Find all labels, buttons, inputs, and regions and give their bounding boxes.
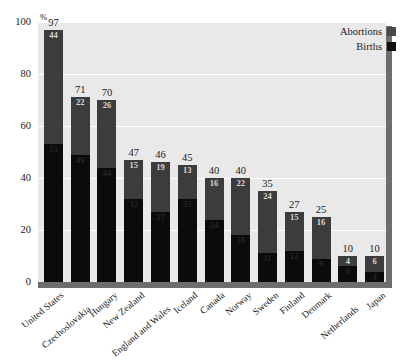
bar-segment-value-births: 44 (97, 169, 116, 178)
bar-segment-value-abortions: 22 (71, 98, 90, 107)
bar-segment-births[interactable]: 49 (71, 155, 90, 282)
legend-item-abortions: Abortions (340, 26, 396, 38)
bar-segment-value-births: 12 (285, 252, 304, 261)
bar-stack: 2218 (231, 178, 250, 282)
y-axis-tick-label: 40 (21, 173, 32, 184)
bar-segment-births[interactable]: 6 (338, 266, 357, 282)
bar-segment-value-births: 6 (338, 267, 357, 276)
y-axis-tick-label: 20 (21, 225, 32, 236)
bar-segment-abortions[interactable]: 4 (338, 256, 357, 266)
bar-segment-value-abortions: 22 (231, 179, 250, 188)
bar-segment-abortions[interactable]: 15 (285, 212, 304, 251)
bar-stack: 2249 (71, 97, 90, 282)
x-axis-tick-label: Netherlands (319, 304, 361, 341)
x-axis-tick-label: United States (20, 290, 65, 330)
bar-segment-births[interactable]: 32 (178, 199, 197, 282)
legend-label-births: Births (356, 41, 382, 53)
bar-segment-value-abortions: 15 (124, 161, 143, 170)
bar-stack: 64 (365, 256, 384, 282)
bar-total-label: 45 (172, 153, 203, 164)
bar-segment-value-abortions: 4 (338, 257, 357, 266)
bar-segment-value-abortions: 44 (44, 31, 63, 40)
bar-segment-abortions[interactable]: 16 (312, 217, 331, 259)
bar-segment-value-births: 32 (124, 200, 143, 209)
bar-stack: 1512 (285, 212, 304, 282)
bar-total-label: 70 (91, 88, 122, 99)
bar-segment-abortions[interactable]: 19 (151, 162, 170, 211)
bar-stack: 2644 (97, 100, 116, 282)
x-axis-tick-label: Norway (223, 290, 253, 317)
bar-stack: 1532 (124, 160, 143, 282)
bar-stack: 2411 (258, 191, 277, 282)
bar-stack: 1332 (178, 165, 197, 282)
chart-legend: Abortions Births (340, 26, 396, 55)
bar-segment-abortions[interactable]: 22 (231, 178, 250, 235)
bar-segment-value-births: 11 (258, 254, 277, 263)
bar-segment-value-abortions: 6 (365, 257, 384, 266)
bar-segment-births[interactable]: 12 (285, 251, 304, 282)
bar-segment-value-births: 24 (205, 221, 224, 230)
bar-total-label: 10 (359, 244, 390, 255)
y-axis-tick-label: 0 (26, 277, 31, 288)
bar-stack: 1624 (205, 178, 224, 282)
bar-segment-births[interactable]: 18 (231, 235, 250, 282)
bar-stack: 46 (338, 256, 357, 282)
x-axis-tick-label: Sweden (250, 290, 279, 317)
bar-segment-abortions[interactable]: 13 (178, 165, 197, 199)
bar-segment-births[interactable]: 32 (124, 199, 143, 282)
bar-segment-value-births: 32 (178, 200, 197, 209)
bar-segment-abortions[interactable]: 44 (44, 30, 63, 144)
bar-total-label: 35 (252, 179, 283, 190)
bar-segment-value-abortions: 16 (205, 179, 224, 188)
y-axis-tick-label: 100 (15, 17, 31, 28)
y-axis: 020406080100 (0, 22, 36, 282)
y-axis-tick-label: 60 (21, 121, 32, 132)
bar-segment-births[interactable]: 53 (44, 144, 63, 282)
y-axis-tick-label: 80 (21, 69, 32, 80)
x-axis-tick-label: Canada (198, 290, 226, 316)
bar-stack: 4453 (44, 30, 63, 282)
bar-segment-abortions[interactable]: 16 (205, 178, 224, 220)
bar-segment-value-abortions: 19 (151, 163, 170, 172)
bar-stack: 1927 (151, 162, 170, 282)
bar-segment-value-births: 4 (365, 273, 384, 282)
legend-swatch-births (387, 42, 396, 51)
bar-segment-value-abortions: 26 (97, 101, 116, 110)
bar-segment-abortions[interactable]: 24 (258, 191, 277, 253)
bar-segment-abortions[interactable]: 26 (97, 100, 116, 168)
bar-segment-value-births: 53 (44, 145, 63, 154)
bar-segment-births[interactable]: 9 (312, 259, 331, 282)
x-axis-tick-label: Iceland (172, 290, 200, 316)
bar-segment-value-births: 49 (71, 156, 90, 165)
x-axis-labels: United StatesCzechoslovakiaHungaryNew Ze… (38, 290, 392, 361)
chart-container: % 020406080100 4453972249712644701532471… (0, 0, 410, 361)
bar-segment-value-abortions: 13 (178, 166, 197, 175)
bar-segment-value-abortions: 16 (312, 218, 331, 227)
legend-swatch-abortions (387, 27, 396, 36)
bar-stack: 169 (312, 217, 331, 282)
bar-segment-value-births: 9 (312, 260, 331, 269)
bar-segment-abortions[interactable]: 6 (365, 256, 384, 272)
bar-segment-value-abortions: 15 (285, 213, 304, 222)
bars-layer: 4453972249712644701532471927461332451624… (38, 22, 386, 282)
bar-segment-births[interactable]: 27 (151, 212, 170, 282)
legend-label-abortions: Abortions (340, 26, 382, 38)
bar-segment-births[interactable]: 44 (97, 168, 116, 282)
x-axis-tick-label: Japan (364, 290, 387, 312)
legend-item-births: Births (340, 41, 396, 53)
bar-segment-births[interactable]: 11 (258, 253, 277, 282)
bar-total-label: 40 (225, 166, 256, 177)
bar-segment-value-abortions: 24 (258, 192, 277, 201)
bar-segment-births[interactable]: 24 (205, 220, 224, 282)
bar-total-label: 25 (306, 205, 337, 216)
bar-segment-abortions[interactable]: 22 (71, 97, 90, 154)
x-axis-tick-label: Denmark (300, 290, 334, 320)
bar-segment-value-births: 18 (231, 236, 250, 245)
plot-frame-bottom-shadow (38, 282, 392, 288)
bar-segment-value-births: 27 (151, 213, 170, 222)
bar-segment-births[interactable]: 4 (365, 272, 384, 282)
bar-segment-abortions[interactable]: 15 (124, 160, 143, 199)
bar-total-label: 97 (38, 18, 69, 29)
